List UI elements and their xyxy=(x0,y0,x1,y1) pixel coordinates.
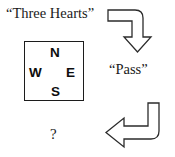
arrow-right-then-down-icon xyxy=(107,7,163,55)
compass-letter-south: S xyxy=(51,85,60,99)
compass-letter-east: E xyxy=(66,66,75,80)
compass-letter-west: W xyxy=(29,66,42,80)
utterance-three-hearts: “Three Hearts” xyxy=(6,6,94,21)
bridge-bidding-diagram: “Three Hearts” N W E S “Pass” ? xyxy=(0,0,175,157)
question-mark-label: ? xyxy=(50,127,57,142)
utterance-pass: “Pass” xyxy=(109,62,148,77)
compass-letter-north: N xyxy=(50,46,60,60)
arrow-down-then-left-icon xyxy=(102,101,162,151)
compass-box: N W E S xyxy=(24,41,84,101)
